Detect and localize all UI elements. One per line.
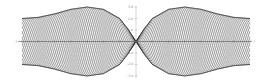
curve-family-plot: -7 7 3.0 2.0 1.0 -1.0 -2.0 -3.0 — [0, 0, 267, 83]
y-tick-label-m2: -2.0 — [127, 62, 133, 66]
y-tick-label-m1: -1.0 — [127, 51, 133, 55]
y-tick-label-1: 1.0 — [128, 28, 133, 32]
y-tick-label-2: 2.0 — [128, 17, 133, 21]
x-tick-label-left: -7 — [14, 40, 17, 44]
x-tick-label-right: 7 — [253, 40, 255, 44]
y-tick-label-3: 3.0 — [128, 5, 133, 9]
y-tick-label-m3: -3.0 — [127, 74, 133, 78]
